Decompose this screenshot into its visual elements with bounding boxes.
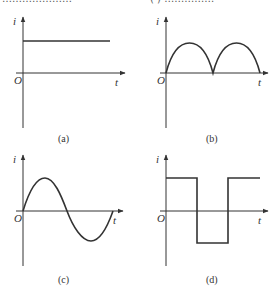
origin-label: O: [14, 212, 22, 224]
rectified-sine-curve: [166, 43, 260, 73]
origin-label: O: [157, 74, 165, 86]
x-axis-label: t: [258, 76, 262, 88]
panel-c: i O t (c): [13, 153, 123, 286]
y-axis-label: i: [13, 153, 16, 165]
origin-label: O: [157, 212, 165, 224]
x-axis-label: t: [113, 214, 117, 226]
panel-caption: (c): [58, 274, 69, 286]
x-axis-label: t: [258, 214, 262, 226]
panel-caption: (b): [206, 133, 218, 145]
panel-b: i O t (b): [156, 15, 268, 145]
y-axis-label: i: [156, 153, 159, 165]
y-axis-label: i: [156, 15, 159, 27]
sine-curve: [23, 178, 113, 241]
panel-a: i O t (a): [13, 15, 125, 145]
panel-caption: (a): [58, 133, 69, 145]
y-axis-label: i: [13, 15, 16, 27]
panel-d: i O t (d): [156, 153, 268, 286]
x-axis-label: t: [115, 76, 119, 88]
panel-caption: (d): [206, 274, 218, 286]
waveform-figure: i O t (a) i O t (b) i O t (c) i O t (d): [0, 0, 278, 292]
origin-label: O: [14, 74, 22, 86]
